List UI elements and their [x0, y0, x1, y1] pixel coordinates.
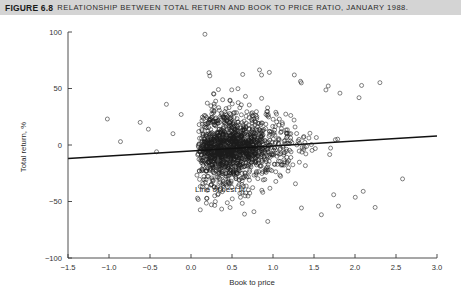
scatter-point — [204, 201, 208, 205]
y-tick-label: 100 — [49, 28, 62, 37]
scatter-point — [293, 125, 297, 129]
scatter-point — [230, 197, 234, 201]
y-tick-label: −50 — [49, 197, 62, 206]
scatter-point — [295, 132, 299, 136]
scatter-point — [217, 108, 221, 112]
scatter-point — [303, 164, 307, 168]
x-tick-label: 1.5 — [309, 263, 320, 272]
scatter-point — [310, 148, 314, 152]
scatter-point — [299, 81, 303, 85]
scatter-point — [271, 124, 275, 128]
scatter-point — [236, 101, 240, 105]
scatter-point — [238, 195, 242, 199]
scatter-point — [247, 103, 251, 107]
scatter-point — [267, 70, 271, 74]
scatter-point — [308, 131, 312, 135]
scatter-point — [205, 101, 209, 105]
scatter-point — [230, 88, 234, 92]
scatter-point — [299, 206, 303, 210]
scatter-point — [324, 88, 328, 92]
y-tick-label: 50 — [54, 84, 62, 93]
y-tick-label: 0 — [58, 141, 62, 150]
x-tick-label: 2.0 — [350, 263, 361, 272]
x-tick-label: 2.5 — [391, 263, 402, 272]
scatter-point — [266, 106, 270, 110]
scatter-point — [239, 113, 243, 117]
scatter-point — [205, 196, 209, 200]
scatter-point — [216, 88, 220, 92]
scatter-point — [297, 149, 301, 153]
scatter-point — [289, 113, 293, 117]
scatter-point — [228, 111, 232, 115]
scatter-point — [266, 219, 270, 223]
scatter-point — [236, 87, 240, 91]
x-axis-title: Book to price — [229, 278, 275, 287]
scatter-point — [247, 178, 251, 182]
best-fit-annotation-label: Line of best fit — [195, 185, 246, 194]
scatter-point — [329, 146, 333, 150]
scatter-point — [268, 186, 272, 190]
scatter-point — [217, 106, 221, 110]
scatter-point — [314, 136, 318, 140]
scatter-point — [291, 163, 295, 167]
scatter-point — [326, 84, 330, 88]
scatter-point — [243, 212, 247, 216]
scatter-point — [105, 117, 109, 121]
scatter-point — [307, 136, 311, 140]
figure-number-label: FIGURE 6.8 — [5, 3, 53, 13]
scatter-point — [260, 96, 264, 100]
scatter-point — [274, 179, 278, 183]
x-tick-label: −1.0 — [102, 263, 117, 272]
scatter-point — [146, 127, 150, 131]
x-tick-label: −1.5 — [61, 263, 76, 272]
scatter-point — [282, 139, 286, 143]
scatter-point — [292, 73, 296, 77]
scatter-point — [297, 160, 301, 164]
x-tick-label: −0.5 — [143, 263, 158, 272]
scatter-point — [252, 210, 256, 214]
figure-container: FIGURE 6.8 RELATIONSHIP BETWEEN TOTAL RE… — [0, 0, 461, 302]
scatter-point — [241, 72, 245, 76]
figure-caption-text: RELATIONSHIP BETWEEN TOTAL RETURN AND BO… — [57, 3, 408, 12]
x-tick-label: 0.5 — [227, 263, 238, 272]
scatter-point — [213, 200, 217, 204]
scatter-point — [336, 204, 340, 208]
scatter-point — [401, 177, 405, 181]
y-axis-title: Total return, % — [19, 122, 28, 172]
scatter-point — [198, 208, 202, 212]
scatter-point — [271, 117, 275, 121]
scatter-point — [277, 117, 281, 121]
scatter-point — [240, 201, 244, 205]
scatter-point — [373, 205, 377, 209]
scatter-point — [353, 195, 357, 199]
scatter-point — [284, 112, 288, 116]
scatter-point — [264, 122, 268, 126]
scatter-point — [196, 196, 200, 200]
scatter-point — [338, 91, 342, 95]
scatter-point — [279, 174, 283, 178]
scatter-point — [360, 83, 364, 87]
scatter-point — [332, 193, 336, 197]
scatter-points-group — [105, 32, 404, 223]
scatter-point — [118, 140, 122, 144]
x-tick-label: 3.0 — [432, 263, 443, 272]
figure-caption-band: FIGURE 6.8 RELATIONSHIP BETWEEN TOTAL RE… — [0, 0, 461, 15]
scatter-point — [195, 173, 199, 177]
scatter-point — [197, 123, 201, 127]
scatter-point — [305, 144, 309, 148]
scatter-point — [274, 170, 278, 174]
scatter-point — [328, 153, 332, 157]
x-tick-label: 1.0 — [268, 263, 279, 272]
plot-area: Line of best fit −100−50050100−1.5−1.0−0… — [0, 15, 461, 302]
y-tick-label: −100 — [45, 254, 62, 263]
scatter-point — [198, 177, 202, 181]
scatter-point — [225, 201, 229, 205]
scatter-point — [378, 81, 382, 85]
scatter-plot-svg: Line of best fit −100−50050100−1.5−1.0−0… — [0, 15, 461, 302]
scatter-point — [293, 182, 297, 186]
scatter-point — [243, 94, 247, 98]
scatter-point — [179, 112, 183, 116]
scatter-point — [221, 98, 225, 102]
scatter-point — [254, 110, 258, 114]
scatter-point — [336, 137, 340, 141]
